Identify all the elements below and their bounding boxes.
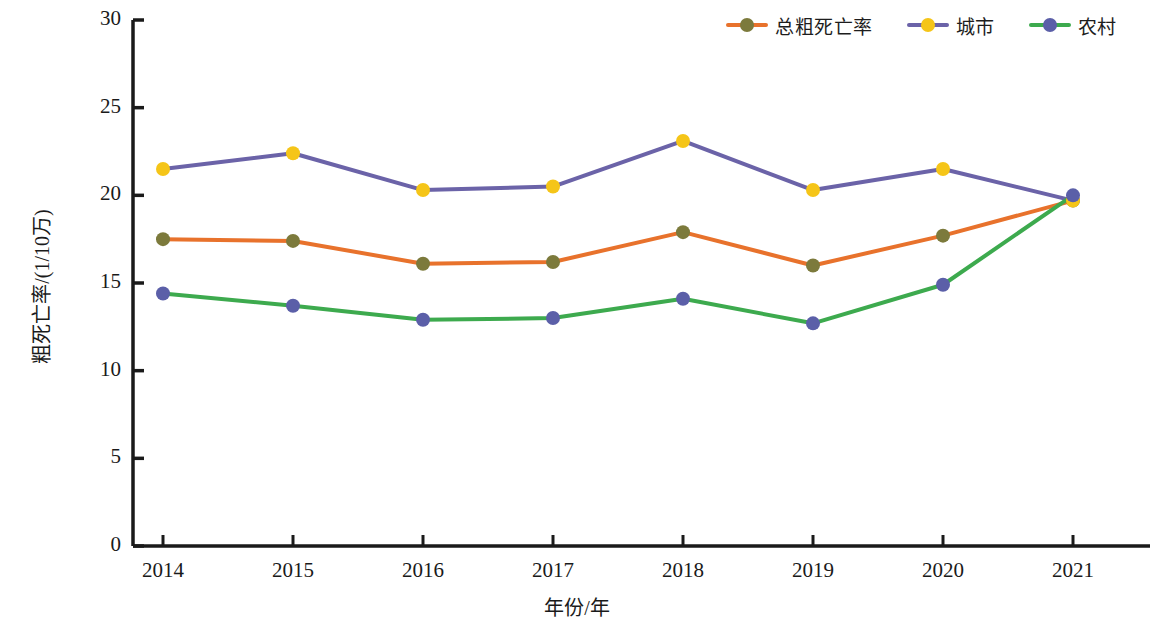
data-point-marker xyxy=(936,229,950,243)
y-axis-tick-label: 5 xyxy=(75,444,121,469)
plot-area xyxy=(0,0,1154,619)
data-point-marker xyxy=(806,183,820,197)
data-point-marker xyxy=(416,183,430,197)
data-point-marker xyxy=(936,162,950,176)
data-point-marker xyxy=(286,234,300,248)
data-point-marker xyxy=(416,257,430,271)
plot-svg xyxy=(0,0,1154,619)
data-point-marker xyxy=(156,287,170,301)
axis-lines xyxy=(133,20,1150,546)
data-point-marker xyxy=(676,134,690,148)
x-axis-tick-label: 2018 xyxy=(638,558,728,583)
data-point-marker xyxy=(676,225,690,239)
data-point-marker xyxy=(286,299,300,313)
data-point-marker xyxy=(156,162,170,176)
x-axis-tick-label: 2021 xyxy=(1028,558,1118,583)
data-point-marker xyxy=(286,146,300,160)
y-axis-tick-label: 25 xyxy=(75,94,121,119)
data-point-marker xyxy=(676,292,690,306)
series-line xyxy=(163,201,1073,266)
data-point-marker xyxy=(806,258,820,272)
data-point-marker xyxy=(416,313,430,327)
x-axis-tick-label: 2016 xyxy=(378,558,468,583)
axis-ticks xyxy=(133,20,1073,546)
data-point-marker xyxy=(546,311,560,325)
y-axis-tick-label: 30 xyxy=(75,6,121,31)
y-axis-tick-label: 10 xyxy=(75,357,121,382)
y-axis-tick-label: 0 xyxy=(75,532,121,557)
x-axis-tick-label: 2019 xyxy=(768,558,858,583)
data-point-marker xyxy=(546,255,560,269)
y-axis-title: 粗死亡率/(1/10万) xyxy=(26,137,55,437)
x-axis-tick-label: 2017 xyxy=(508,558,598,583)
x-axis-tick-label: 2015 xyxy=(248,558,338,583)
x-axis-title: 年份/年 xyxy=(477,592,677,619)
data-series-group xyxy=(156,134,1080,330)
y-axis-tick-label: 15 xyxy=(75,269,121,294)
data-point-marker xyxy=(1066,188,1080,202)
data-point-marker xyxy=(936,278,950,292)
data-point-marker xyxy=(156,232,170,246)
x-axis-tick-label: 2020 xyxy=(898,558,988,583)
x-axis-tick-label: 2014 xyxy=(118,558,208,583)
y-axis-tick-label: 20 xyxy=(75,181,121,206)
data-point-marker xyxy=(806,316,820,330)
chart-figure: 总粗死亡率城市农村 051015202530 20142015201620172… xyxy=(0,0,1154,619)
data-point-marker xyxy=(546,180,560,194)
